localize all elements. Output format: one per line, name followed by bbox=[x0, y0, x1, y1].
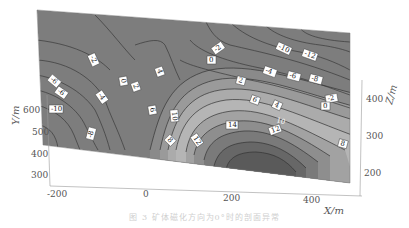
contour-label: 14 bbox=[226, 121, 238, 129]
svg-text:300: 300 bbox=[31, 170, 48, 180]
svg-text:Y/m: Y/m bbox=[10, 106, 21, 125]
svg-text:300: 300 bbox=[366, 131, 383, 141]
contour-label: 6 bbox=[148, 105, 157, 115]
svg-text:600: 600 bbox=[23, 105, 40, 115]
svg-text:-2: -2 bbox=[327, 94, 335, 103]
svg-text:400: 400 bbox=[366, 94, 383, 104]
contour-label: 10 bbox=[170, 109, 179, 122]
contour-figure: -10 -8 -6 -6 -4 -2 0 2 4 6 8 10 12 14 10… bbox=[0, 0, 409, 228]
svg-text:-10: -10 bbox=[51, 105, 62, 113]
contour-label: 0 bbox=[207, 56, 216, 64]
z-axis: 400 300 200 Z/m bbox=[360, 80, 399, 196]
contour-plane bbox=[37, 10, 360, 200]
svg-text:200: 200 bbox=[223, 193, 240, 203]
svg-text:200: 200 bbox=[364, 168, 381, 178]
svg-text:500: 500 bbox=[32, 127, 49, 137]
contour-label: 0 bbox=[119, 76, 128, 86]
figure-caption: 图 3 矿体磁化方向为0°时的剖面异常 bbox=[0, 211, 409, 222]
svg-text:0: 0 bbox=[143, 189, 149, 199]
svg-text:14: 14 bbox=[228, 121, 237, 129]
svg-text:10: 10 bbox=[170, 111, 179, 121]
svg-text:0: 0 bbox=[209, 56, 213, 64]
contour-label: 0 bbox=[321, 102, 330, 110]
svg-text:400: 400 bbox=[31, 149, 48, 159]
contour-label: -10 bbox=[49, 105, 63, 113]
svg-text:-200: -200 bbox=[47, 189, 67, 199]
svg-text:0: 0 bbox=[323, 102, 327, 110]
svg-text:Z/m: Z/m bbox=[383, 84, 399, 107]
svg-text:400: 400 bbox=[303, 195, 320, 205]
